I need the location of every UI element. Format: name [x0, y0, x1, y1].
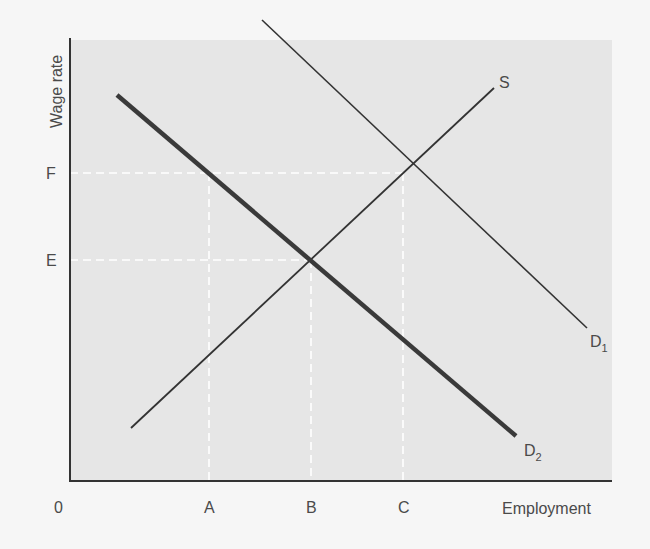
- y-axis-label: Wage rate: [48, 55, 65, 128]
- x-tick-a: A: [204, 499, 215, 516]
- labor-market-chart: Wage rate Employment 0 A B C F E S D1 D2: [0, 0, 650, 549]
- origin-label: 0: [54, 499, 63, 516]
- y-tick-e: E: [46, 252, 57, 269]
- label-s: S: [499, 74, 510, 91]
- x-axis-label: Employment: [502, 500, 591, 517]
- x-tick-b: B: [306, 499, 317, 516]
- x-tick-c: C: [398, 499, 410, 516]
- y-tick-f: F: [46, 165, 56, 182]
